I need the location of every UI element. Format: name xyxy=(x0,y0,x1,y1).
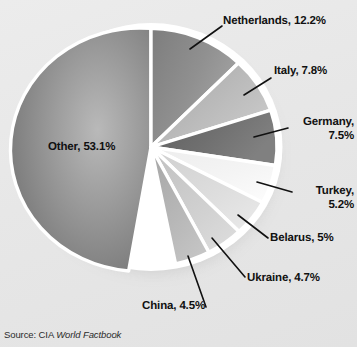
pie-chart-graphic xyxy=(0,0,357,347)
slice-label-other: Other, 53.1% xyxy=(48,141,115,155)
source-publication: World Factbook xyxy=(56,329,121,340)
slice-label-italy: Italy, 7.8% xyxy=(274,65,327,79)
pie-chart-figure: Netherlands, 12.2% Italy, 7.8% Germany, … xyxy=(0,0,357,347)
slice-label-china: China, 4.5% xyxy=(85,300,205,314)
source-note: Source: CIA World Factbook xyxy=(4,329,121,340)
slice-label-ukraine: Ukraine, 4.7% xyxy=(247,272,320,286)
source-prefix: Source: CIA xyxy=(4,329,56,340)
slice-label-germany: Germany, 7.5% xyxy=(282,116,354,143)
slice-label-belarus: Belarus, 5% xyxy=(270,232,334,246)
slice-label-netherlands: Netherlands, 12.2% xyxy=(223,15,326,29)
slice-label-turkey: Turkey, 5.2% xyxy=(282,185,354,212)
